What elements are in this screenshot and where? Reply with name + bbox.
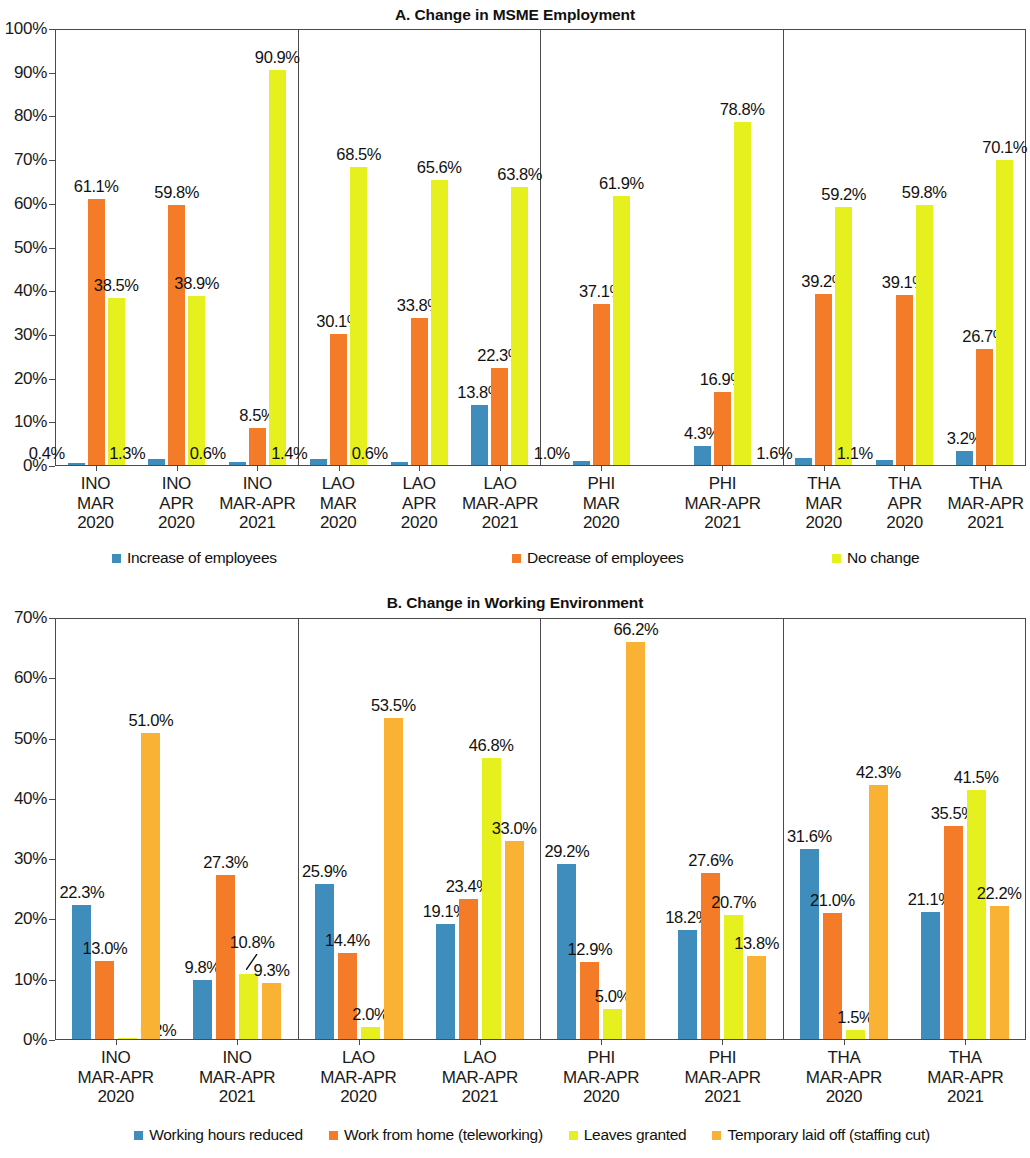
bar[interactable]: 66.2%: [626, 642, 645, 1039]
x-label-country: THA: [864, 474, 945, 494]
legend-item[interactable]: No change: [832, 549, 919, 567]
panel-a-legend: Increase of employeesDecrease of employe…: [112, 549, 942, 567]
x-label-year: 2020: [379, 513, 460, 533]
bar[interactable]: 33.0%: [505, 841, 524, 1039]
bar[interactable]: 21.1%: [921, 912, 940, 1039]
bar[interactable]: 9.3%: [262, 983, 281, 1039]
bar[interactable]: 33.8%: [411, 318, 428, 465]
bar[interactable]: 31.6%: [800, 849, 819, 1039]
bar-group: 0.4%61.1%38.5%: [56, 30, 137, 465]
bar-value-label: 42.3%: [856, 763, 901, 782]
bar[interactable]: 0.6%: [229, 462, 246, 465]
bar[interactable]: 4.3%: [694, 446, 711, 465]
legend-item[interactable]: Increase of employees: [112, 549, 512, 567]
x-axis-label: LAOAPR2020: [379, 474, 460, 533]
bar[interactable]: 19.1%: [436, 924, 455, 1039]
bar[interactable]: 22.3%: [72, 905, 91, 1039]
x-label-period: MAR-APR: [945, 494, 1026, 514]
bar[interactable]: 61.9%: [613, 196, 630, 465]
y-axis-tick-b: 50%: [14, 729, 47, 749]
bar[interactable]: 22.2%: [990, 906, 1009, 1039]
legend-item[interactable]: Temporary laid off (staffing cut): [712, 1126, 929, 1144]
bar[interactable]: 59.2%: [835, 207, 852, 465]
bar[interactable]: 37.1%: [593, 304, 610, 465]
bar[interactable]: 27.3%: [216, 875, 235, 1039]
bar[interactable]: 13.8%: [471, 405, 488, 465]
x-axis-label: THAMAR-APR2021: [905, 1048, 1026, 1107]
bar[interactable]: 25.9%: [315, 884, 334, 1039]
x-label-country: LAO: [460, 474, 541, 494]
bar[interactable]: 9.8%: [193, 980, 212, 1039]
bar[interactable]: 3.2%: [956, 451, 973, 465]
bar[interactable]: 16.9%: [714, 392, 731, 466]
x-label-period: APR: [136, 494, 217, 514]
bar[interactable]: 30.1%: [330, 334, 347, 465]
bar[interactable]: 1.4%: [310, 459, 327, 465]
bar[interactable]: 68.5%: [350, 167, 367, 465]
bar[interactable]: 38.5%: [108, 298, 125, 465]
country-block-lao: 1.4%30.1%68.5%0.6%33.8%65.6%13.8%22.3%63…: [299, 30, 542, 465]
panel-b-title: B. Change in Working Environment: [0, 594, 1030, 612]
x-country-group: LAOMAR2020LAOAPR2020LAOMAR-APR2021: [298, 474, 541, 533]
legend-item[interactable]: Work from home (teleworking): [329, 1126, 543, 1144]
legend-item[interactable]: Decrease of employees: [512, 549, 832, 567]
bar[interactable]: 61.1%: [88, 199, 105, 465]
bar[interactable]: 59.8%: [916, 205, 933, 465]
bar[interactable]: 14.4%: [338, 953, 357, 1039]
x-country-group: INOMAR2020INOAPR2020INOMAR-APR2021: [55, 474, 298, 533]
x-label-period: MAR-APR: [419, 1068, 540, 1088]
bar[interactable]: 41.5%: [967, 790, 986, 1039]
bar[interactable]: 26.7%: [976, 349, 993, 465]
bar[interactable]: 51.0%: [141, 733, 160, 1039]
bar[interactable]: 1.0%: [573, 461, 590, 465]
bar[interactable]: 0.4%: [68, 463, 85, 465]
bar-group: 1.1%39.1%59.8%: [864, 30, 945, 465]
legend-item[interactable]: Leaves granted: [569, 1126, 687, 1144]
x-label-period: MAR-APR: [460, 494, 541, 514]
bar[interactable]: 22.3%: [491, 368, 508, 465]
bar[interactable]: 23.4%: [459, 899, 478, 1039]
bar[interactable]: 63.8%: [511, 187, 528, 465]
bar[interactable]: 8.5%: [249, 428, 266, 465]
bar[interactable]: 10.8%: [239, 974, 258, 1039]
bar[interactable]: 59.8%: [168, 205, 185, 465]
bar-group: 13.8%22.3%63.8%: [460, 30, 541, 465]
bar[interactable]: 39.1%: [896, 295, 913, 465]
bar-value-label: 27.3%: [203, 853, 248, 872]
bar-group: 18.2%27.6%20.7%13.8%: [662, 619, 783, 1039]
x-label-country: INO: [176, 1048, 297, 1068]
bar[interactable]: 1.1%: [876, 460, 893, 465]
bar[interactable]: 18.2%: [678, 930, 697, 1039]
bar[interactable]: 1.3%: [148, 459, 165, 465]
square-swatch: [112, 554, 121, 563]
bar[interactable]: 39.2%: [815, 294, 832, 465]
x-label-year: 2020: [783, 1087, 904, 1107]
bar[interactable]: 0.6%: [391, 462, 408, 465]
bar[interactable]: 0.2%: [118, 1038, 137, 1039]
legend-item[interactable]: Working hours reduced: [134, 1126, 303, 1144]
bar[interactable]: 42.3%: [869, 785, 888, 1039]
x-label-period: MAR-APR: [55, 1068, 176, 1088]
bar-value-label: 66.2%: [613, 620, 658, 639]
bar[interactable]: 90.9%: [269, 70, 286, 465]
bar[interactable]: 5.0%: [603, 1009, 622, 1039]
bar[interactable]: 46.8%: [482, 758, 501, 1039]
bar[interactable]: 13.8%: [747, 956, 766, 1039]
bar[interactable]: 35.5%: [944, 826, 963, 1039]
x-label-period: MAR-APR: [905, 1068, 1026, 1088]
bar[interactable]: 78.8%: [734, 122, 751, 465]
bar[interactable]: 2.0%: [361, 1027, 380, 1039]
bar[interactable]: 65.6%: [431, 180, 448, 465]
x-axis-label: INOMAR-APR2021: [217, 474, 298, 533]
x-label-country: LAO: [298, 474, 379, 494]
bar[interactable]: 13.0%: [95, 961, 114, 1039]
bar[interactable]: 70.1%: [996, 160, 1013, 465]
bar-value-label: 9.3%: [254, 961, 290, 980]
bar[interactable]: 1.5%: [846, 1030, 865, 1039]
bar-value-label: 14.4%: [325, 931, 370, 950]
bar[interactable]: 1.6%: [795, 458, 812, 465]
bar-value-label: 0.6%: [352, 444, 388, 463]
bar[interactable]: 53.5%: [384, 718, 403, 1039]
x-label-country: INO: [136, 474, 217, 494]
bar[interactable]: 38.9%: [188, 296, 205, 465]
